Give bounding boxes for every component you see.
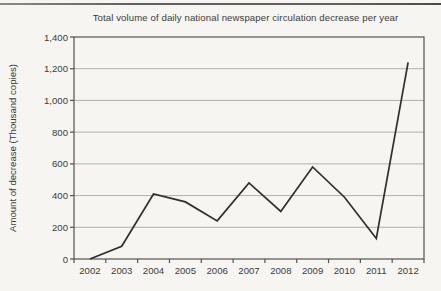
x-tick-label: 2011 — [358, 265, 394, 276]
x-tick-label: 2009 — [295, 265, 331, 276]
plot-svg — [0, 0, 441, 291]
y-tick-label: 1,400 — [0, 32, 68, 43]
x-tick-label: 2004 — [136, 265, 172, 276]
page-root: Total volume of daily national newspaper… — [0, 0, 441, 291]
x-tick-label: 2003 — [104, 265, 140, 276]
x-tick-label: 2002 — [72, 265, 108, 276]
x-tick-label: 2012 — [390, 265, 426, 276]
x-tick-label: 2005 — [167, 265, 203, 276]
x-tick-label: 2010 — [326, 265, 362, 276]
y-tick-label: 0 — [0, 254, 68, 265]
y-tick-label: 1,000 — [0, 95, 68, 106]
x-tick-label: 2008 — [263, 265, 299, 276]
data-line — [90, 62, 408, 259]
plot-border — [74, 37, 424, 259]
y-tick-label: 800 — [0, 127, 68, 138]
y-tick-label: 1,200 — [0, 63, 68, 74]
y-tick-label: 600 — [0, 158, 68, 169]
y-tick-label: 400 — [0, 190, 68, 201]
x-tick-label: 2007 — [231, 265, 267, 276]
y-tick-label: 200 — [0, 222, 68, 233]
x-tick-label: 2006 — [199, 265, 235, 276]
